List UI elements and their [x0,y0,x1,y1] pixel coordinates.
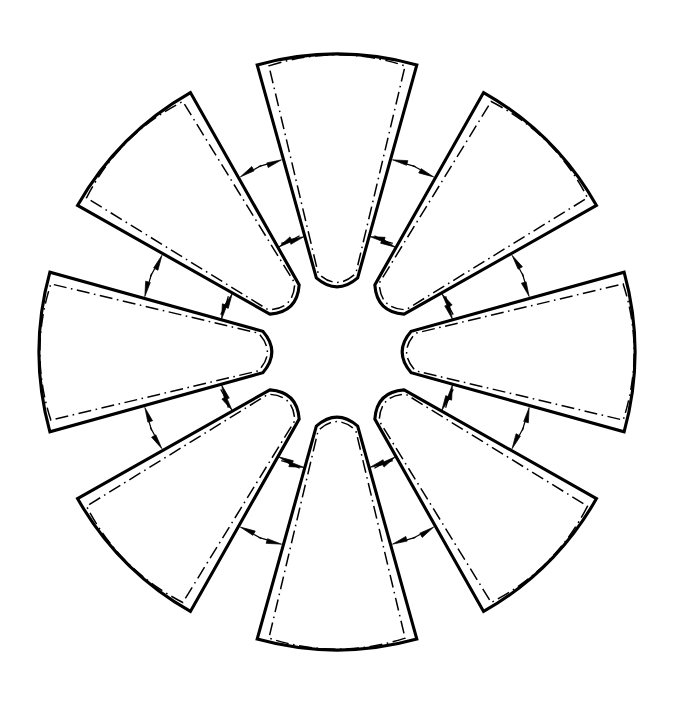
petal-pattern-svg [0,0,674,715]
petal-layout-diagram [0,0,674,715]
